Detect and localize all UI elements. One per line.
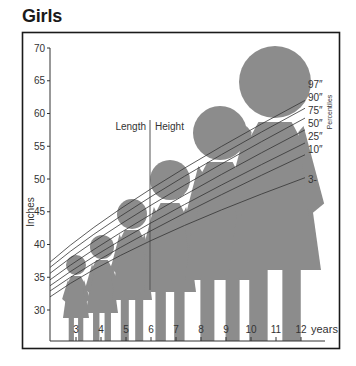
girl-silhouettes [62,46,324,341]
percentile-label-50: 50″ [308,118,323,129]
x-tick-label: 5 [123,324,129,335]
y-tick-label: 50 [34,174,46,185]
head [239,46,311,118]
y-ticks: 303540455055606570 [34,43,50,316]
height-label: Height [155,121,184,132]
y-tick-label: 55 [34,141,46,152]
girl-figure [226,46,324,341]
leg [78,316,83,341]
percentiles-title: Percentiles [326,94,333,129]
y-tick-label: 40 [34,239,46,250]
y-tick-label: 65 [34,75,46,86]
x-tick-label: 12 [295,324,307,335]
head [117,199,147,229]
x-tick-label: 11 [271,324,282,335]
y-tick-label: 35 [34,272,46,283]
y-tick-label: 60 [34,108,46,119]
growth-chart: Length Height 97″90″75″50″25″10″3- Perce… [0,0,356,366]
head [66,255,86,275]
leg [155,290,165,341]
y-tick-label: 70 [34,43,46,54]
percentile-label-25: 25″ [308,131,323,142]
percentile-label-75: 75″ [308,105,323,116]
head [193,106,247,160]
percentile-label-10: 10″ [308,144,323,155]
percentile-label-90: 90″ [308,92,323,103]
percentile-label-97: 97″ [308,79,323,90]
x-tick-label: 7 [173,324,179,335]
leg [135,298,143,341]
length-label: Length [115,121,146,132]
percentile-label-3: 3- [308,174,317,185]
leg [105,311,111,341]
x-tick-label: 6 [148,324,154,335]
x-tick-label: 8 [198,324,204,335]
x-axis-title: years [311,323,338,335]
y-axis-title: Inches [25,197,36,226]
x-tick-label: 10 [245,324,257,335]
y-tick-label: 30 [34,305,46,316]
x-tick-label: 3 [73,324,79,335]
x-tick-label: 9 [223,324,229,335]
x-tick-label: 4 [98,324,104,335]
